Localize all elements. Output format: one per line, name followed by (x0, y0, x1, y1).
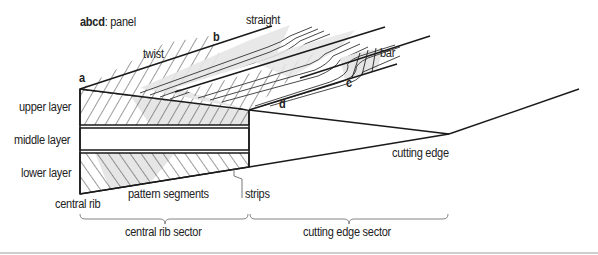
twist-label: twist (143, 47, 164, 61)
straight-label: straight (246, 13, 280, 27)
middle-layer-label: middle layer (14, 133, 70, 147)
strips-callout (234, 168, 242, 198)
central-rib-label: central rib (55, 197, 100, 211)
panel-legend: abcd: panel (80, 15, 136, 29)
bar-label: bar (380, 46, 395, 60)
point-a-label: a (79, 71, 85, 85)
central-rib-sector-label: central rib sector (125, 225, 202, 239)
upper-layer-label: upper layer (19, 100, 71, 114)
panel-legend-bold: abcd (80, 15, 105, 29)
strips-label: strips (245, 187, 270, 201)
pattern-welded-blade-diagram (0, 0, 598, 255)
point-c-label: c (346, 76, 352, 90)
middle-layer-shape (80, 128, 249, 150)
panel-legend-text: : panel (105, 15, 136, 29)
lower-layer-label: lower layer (21, 166, 71, 180)
bottom-divider (0, 252, 598, 254)
cutting-edge-sector-bracket (250, 214, 448, 224)
cutting-edge-sector-label: cutting edge sector (303, 225, 391, 239)
cutting-edge-label: cutting edge (392, 146, 449, 160)
point-b-label: b (213, 30, 219, 44)
point-d-label: d (279, 97, 285, 111)
central-rib-sector-bracket (80, 214, 248, 224)
pattern-segments-label: pattern segments (128, 187, 209, 201)
twisted-panel-band (80, 16, 430, 110)
